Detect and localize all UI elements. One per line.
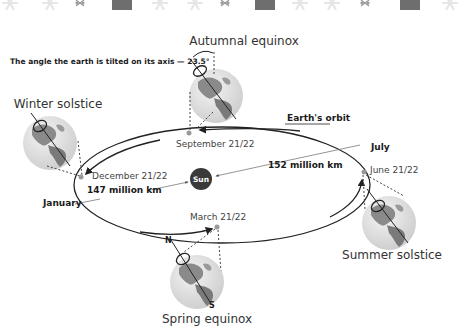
gift-icon [255, 0, 275, 10]
orbit-arrow-right [330, 180, 362, 217]
snowflake-icon [188, 0, 202, 9]
orbit-position-dot [215, 225, 220, 230]
aphelion-distance-line [216, 166, 262, 176]
spring-equinox-title: Spring equinox [162, 312, 252, 326]
decorative-banner [3, 0, 457, 10]
gift-icon [400, 0, 420, 10]
sun: Sun [190, 168, 212, 190]
march-date-label: March 21/22 [190, 212, 246, 222]
summer-solstice: June 21/22 Summer solstice [342, 165, 442, 262]
june-date-label: June 21/22 [369, 165, 418, 175]
summer-solstice-title: Summer solstice [342, 248, 442, 262]
snowflake-sprig-icon [361, 0, 369, 6]
tilt-angle-label: The angle the earth is tilted on its axi… [10, 57, 210, 66]
snowflake-icon [153, 0, 167, 9]
september-date-label: September 21/22 [176, 139, 255, 149]
north-pole-label: N [165, 236, 172, 245]
snowflake-icon [443, 0, 457, 9]
orbit-position-dot [362, 170, 367, 175]
globe-icon [189, 69, 243, 123]
sun-label: Sun [193, 175, 209, 184]
snowflake-icon [3, 0, 17, 9]
snowflake-icon [325, 0, 339, 9]
perihelion-distance-label: 147 million km [87, 185, 162, 195]
orbit-position-dot [187, 131, 192, 136]
snowflake-sprig-icon [221, 0, 229, 6]
orbit-position-dot [79, 175, 84, 180]
july-label: July [370, 142, 390, 152]
aphelion-distance-label: 152 million km [268, 160, 343, 170]
snowflake-sprig-icon [76, 0, 84, 6]
orbit-arrow-left [86, 140, 160, 174]
snowflake-icon [43, 0, 57, 9]
snowflake-icon [293, 0, 307, 9]
autumnal-equinox-title: Autumnal equinox [189, 34, 299, 48]
january-label: January [42, 198, 82, 208]
earth-orbit-diagram: Sun 152 million km 147 million km Januar… [0, 0, 464, 329]
globe-icon [23, 116, 77, 170]
gift-icon [112, 0, 132, 10]
orbit-label: Earth's orbit [287, 113, 351, 123]
globe-icon [362, 196, 416, 250]
winter-solstice-title: Winter solstice [14, 97, 103, 111]
winter-solstice: Winter solstice December 21/22 [14, 97, 168, 181]
december-date-label: December 21/22 [92, 171, 167, 181]
south-pole-label: S [209, 301, 215, 310]
orbit-arrow-top [200, 129, 300, 131]
orbit-arrow-bottom [140, 229, 212, 234]
spring-equinox: March 21/22 N S Spring equinox [162, 212, 252, 326]
